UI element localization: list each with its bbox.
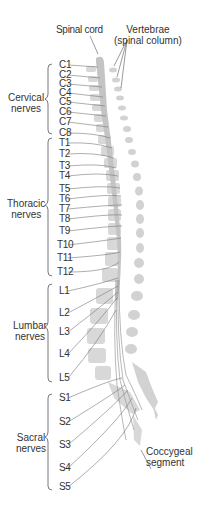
nerve-label-s4: S4	[59, 463, 71, 473]
nerve-label-t10: T10	[57, 240, 73, 250]
group-braces	[45, 64, 52, 490]
nerve-label-s3: S3	[59, 440, 71, 450]
coccygeal-segment-label: Coccygeal segment	[146, 446, 193, 468]
nerve-label-c7: C7	[59, 117, 71, 127]
nerve-label-l2: L2	[59, 308, 70, 318]
lumbar-nerves-label: Lumbar nerves	[13, 320, 47, 342]
nerve-label-l3: L3	[59, 327, 70, 337]
thoracic-nerves-label: Thoracic nerves	[7, 198, 45, 220]
nerve-label-l5: L5	[59, 373, 70, 383]
nerve-label-t11: T11	[57, 253, 73, 263]
nerve-label-s2: S2	[59, 417, 71, 427]
spinal-cord-label: Spinal cord	[56, 25, 103, 35]
nerve-label-t1: T1	[59, 138, 70, 148]
vertebrae-label: Vertebrae (spinal column)	[114, 24, 182, 46]
nerve-label-t8: T8	[59, 214, 70, 224]
nerve-label-s1: S1	[59, 393, 71, 403]
cervical-nerves-label: Cervical nerves	[8, 92, 44, 114]
nerve-label-l1: L1	[59, 286, 70, 296]
nerve-label-t2: T2	[59, 149, 70, 159]
nerve-label-t9: T9	[59, 226, 70, 236]
nerve-label-t12: T12	[57, 267, 73, 277]
nerve-label-l4: L4	[59, 349, 70, 359]
sacral-nerves-label: Sacral nerves	[16, 432, 46, 454]
nerve-label-s5: S5	[59, 482, 71, 492]
nerve-label-t4: T4	[59, 171, 70, 181]
